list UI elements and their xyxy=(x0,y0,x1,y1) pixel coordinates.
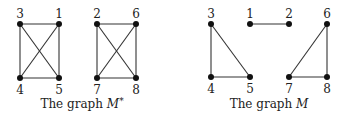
caption-m-star: The graph M* xyxy=(40,96,124,111)
node-4 xyxy=(17,75,23,81)
edge-6-7 xyxy=(289,24,327,77)
node-label-8: 8 xyxy=(132,83,140,97)
node-3 xyxy=(17,21,23,27)
node-7 xyxy=(94,75,100,81)
node-label-3: 3 xyxy=(16,7,24,21)
node-label-6: 6 xyxy=(132,7,140,21)
node-label-7: 7 xyxy=(285,82,293,96)
node-label-2: 2 xyxy=(285,7,293,21)
node-1 xyxy=(247,21,253,27)
node-5 xyxy=(56,75,62,81)
node-label-7: 7 xyxy=(93,83,101,97)
graph-m-star: 31452678The graph M* xyxy=(16,7,140,111)
graph-m: 31264578The graph M xyxy=(207,7,331,111)
node-label-1: 1 xyxy=(55,7,63,21)
node-label-5: 5 xyxy=(246,82,254,96)
node-label-3: 3 xyxy=(207,7,215,21)
node-4 xyxy=(208,74,214,80)
edge-3-5 xyxy=(211,24,250,77)
node-8 xyxy=(324,74,330,80)
node-6 xyxy=(324,21,330,27)
node-8 xyxy=(133,75,139,81)
caption-m: The graph M xyxy=(230,97,309,111)
node-label-8: 8 xyxy=(323,82,331,96)
node-label-5: 5 xyxy=(55,83,63,97)
node-label-1: 1 xyxy=(246,7,254,21)
node-1 xyxy=(56,21,62,27)
node-6 xyxy=(133,21,139,27)
node-3 xyxy=(208,21,214,27)
node-label-2: 2 xyxy=(93,7,101,21)
node-2 xyxy=(286,21,292,27)
graph-figure: 31452678The graph M* 31264578The graph M xyxy=(0,0,345,121)
node-label-4: 4 xyxy=(16,83,24,97)
node-2 xyxy=(94,21,100,27)
node-5 xyxy=(247,74,253,80)
node-label-4: 4 xyxy=(207,82,215,96)
node-7 xyxy=(286,74,292,80)
node-label-6: 6 xyxy=(323,7,331,21)
